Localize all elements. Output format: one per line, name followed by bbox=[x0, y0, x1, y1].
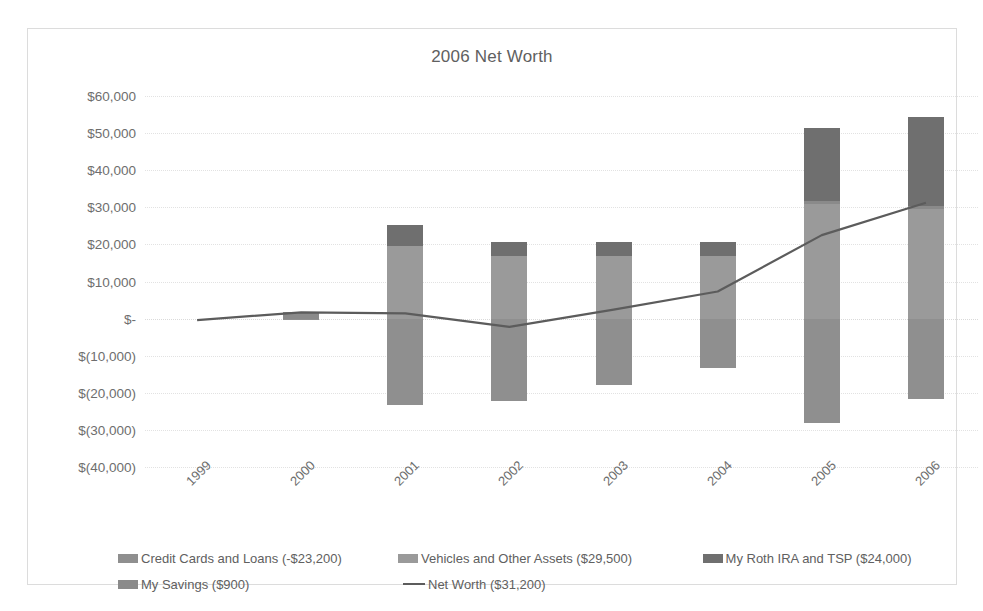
legend-label: Vehicles and Other Assets ($29,500) bbox=[421, 551, 632, 566]
y-axis-tick-label: $30,000 bbox=[87, 200, 136, 215]
legend-entry[interactable]: Net Worth ($31,200) bbox=[403, 577, 713, 592]
legend-entry[interactable]: My Roth IRA and TSP ($24,000) bbox=[703, 551, 958, 566]
chart-screenshot: 2006 Net Worth $60,000$50,000$40,000$30,… bbox=[0, 0, 983, 611]
plot-area bbox=[145, 96, 978, 467]
y-axis-tick-label: $(20,000) bbox=[78, 385, 136, 400]
y-axis-tick-label: $(40,000) bbox=[78, 460, 136, 475]
y-axis-labels: $60,000$50,000$40,000$30,000$20,000$10,0… bbox=[48, 96, 136, 467]
chart-frame: 2006 Net Worth $60,000$50,000$40,000$30,… bbox=[27, 28, 957, 585]
legend-entry[interactable]: Vehicles and Other Assets ($29,500) bbox=[398, 551, 703, 566]
y-axis-tick-label: $(30,000) bbox=[78, 422, 136, 437]
legend-color-swatch bbox=[398, 554, 418, 563]
y-axis-tick-label: $20,000 bbox=[87, 237, 136, 252]
chart-title: 2006 Net Worth bbox=[28, 47, 956, 67]
x-axis-labels: 19992000200120022003200420052006 bbox=[145, 470, 978, 530]
chart-legend: Credit Cards and Loans (-$23,200)Vehicle… bbox=[118, 545, 958, 597]
gridline bbox=[145, 467, 978, 468]
y-axis-tick-label: $60,000 bbox=[87, 89, 136, 104]
legend-label: Net Worth ($31,200) bbox=[428, 577, 546, 592]
legend-row: My Savings ($900)Net Worth ($31,200) bbox=[118, 571, 958, 597]
legend-entry[interactable]: My Savings ($900) bbox=[118, 577, 403, 592]
y-axis-tick-label: $10,000 bbox=[87, 274, 136, 289]
net-worth-polyline bbox=[197, 203, 926, 327]
y-axis-tick-label: $(10,000) bbox=[78, 348, 136, 363]
y-axis-tick-label: $- bbox=[124, 311, 136, 326]
y-axis-tick-label: $50,000 bbox=[87, 126, 136, 141]
legend-color-swatch bbox=[118, 554, 138, 563]
legend-row: Credit Cards and Loans (-$23,200)Vehicle… bbox=[118, 545, 958, 571]
legend-label: My Roth IRA and TSP ($24,000) bbox=[726, 551, 912, 566]
legend-line-swatch bbox=[403, 583, 425, 585]
legend-entry[interactable]: Credit Cards and Loans (-$23,200) bbox=[118, 551, 398, 566]
y-axis-tick-label: $40,000 bbox=[87, 163, 136, 178]
legend-color-swatch bbox=[703, 554, 723, 563]
legend-label: Credit Cards and Loans (-$23,200) bbox=[141, 551, 342, 566]
net-worth-line bbox=[145, 96, 978, 467]
legend-label: My Savings ($900) bbox=[141, 577, 249, 592]
legend-color-swatch bbox=[118, 580, 138, 589]
